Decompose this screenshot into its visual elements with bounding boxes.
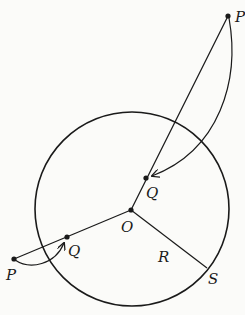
inversion-diagram: P Q O Q P R S <box>0 0 245 315</box>
point-o-center <box>128 207 133 212</box>
point-q-left <box>64 234 69 239</box>
inversion-arrow-top <box>152 18 232 176</box>
point-p-top <box>225 13 230 18</box>
point-p-left <box>11 256 16 261</box>
label-q-left: Q <box>68 242 80 260</box>
label-q-inner: Q <box>146 184 158 202</box>
label-s: S <box>208 270 218 288</box>
label-p-top: P <box>234 8 245 26</box>
inversion-arrow-left <box>15 243 64 265</box>
label-r: R <box>157 248 169 266</box>
point-q-inner <box>143 175 148 180</box>
label-p-left: P <box>5 266 17 284</box>
label-o: O <box>121 218 133 236</box>
